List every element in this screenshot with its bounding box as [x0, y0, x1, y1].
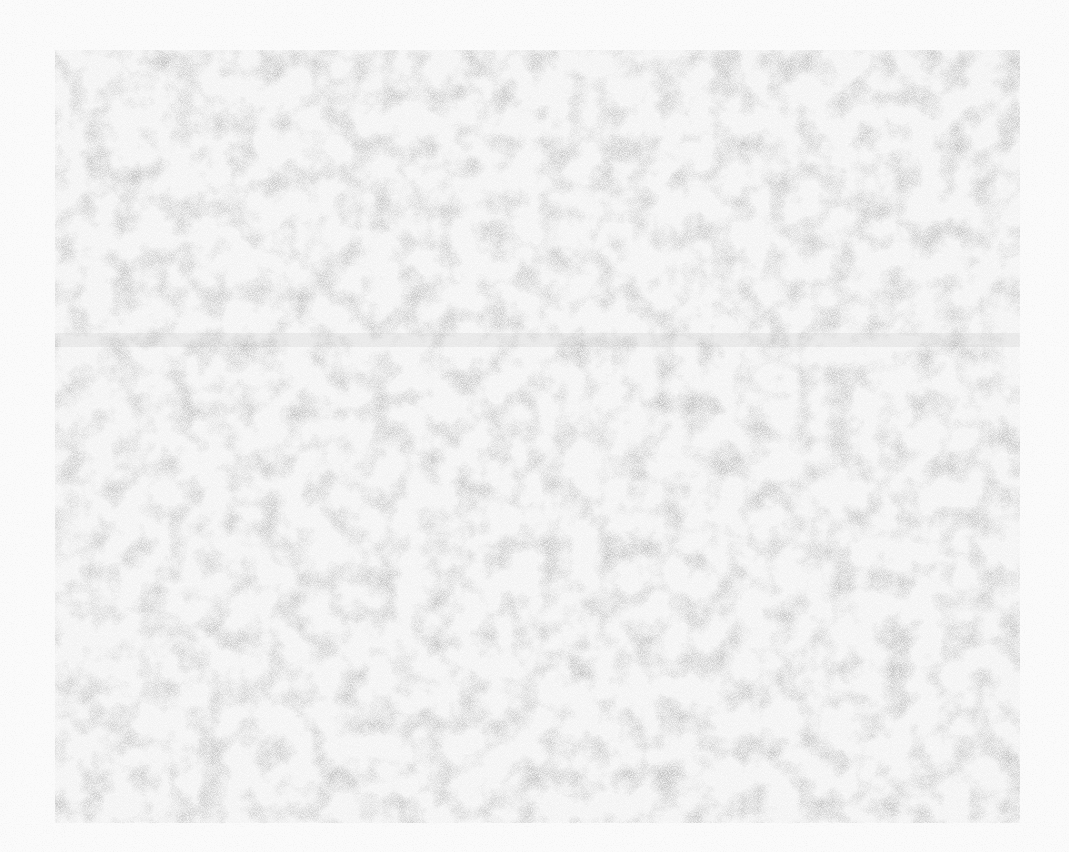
horizontal-band — [55, 333, 1020, 347]
canvas — [0, 0, 1069, 852]
textured-panel — [55, 50, 1020, 823]
panel-noise-texture — [55, 50, 1020, 823]
